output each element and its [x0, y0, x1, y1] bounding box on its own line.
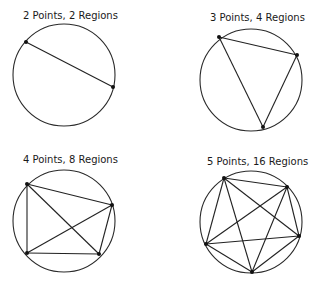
chord-line: [26, 42, 113, 87]
point-marker: [261, 125, 265, 129]
point-marker: [222, 176, 226, 180]
panel-title: 5 Points, 16 Regions: [207, 156, 308, 167]
point-marker: [297, 234, 301, 238]
point-marker: [285, 185, 289, 189]
point-marker: [24, 40, 28, 44]
chord-line: [27, 205, 112, 253]
point-marker: [111, 85, 115, 89]
point-marker: [250, 270, 254, 274]
panel-4-points: 4 Points, 8 Regions: [13, 154, 118, 272]
chord-line: [219, 37, 263, 127]
chord-line: [206, 236, 299, 244]
chord-line: [263, 55, 297, 127]
chord-line: [206, 178, 224, 244]
chord-line: [27, 184, 112, 205]
chord-line: [27, 253, 99, 254]
point-marker: [110, 203, 114, 207]
chord-line: [219, 37, 297, 55]
point-marker: [25, 251, 29, 255]
panel-title: 4 Points, 8 Regions: [23, 154, 118, 165]
panel-2-points: 2 Points, 2 Regions: [13, 10, 118, 126]
point-marker: [25, 182, 29, 186]
point-marker: [295, 53, 299, 57]
point-marker: [97, 252, 101, 256]
circle-division-diagram: 2 Points, 2 Regions 3 Points, 4 Regions …: [0, 0, 312, 288]
panel-3-points: 3 Points, 4 Regions: [200, 12, 305, 131]
panel-title: 2 Points, 2 Regions: [23, 10, 118, 21]
point-marker: [217, 35, 221, 39]
panel-title: 3 Points, 4 Regions: [210, 12, 305, 23]
panel-5-points: 5 Points, 16 Regions: [200, 156, 308, 274]
circle-outline: [13, 24, 115, 126]
chord-line: [99, 205, 112, 254]
point-marker: [204, 242, 208, 246]
